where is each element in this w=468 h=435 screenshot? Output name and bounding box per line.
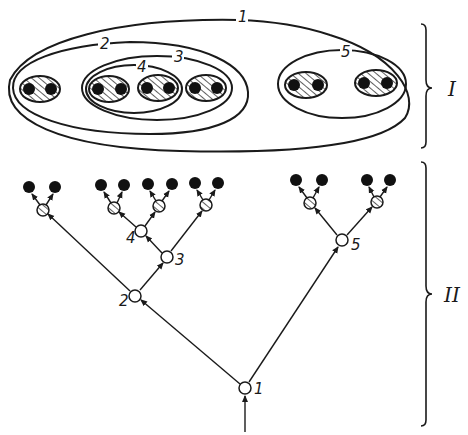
- tree-leaves: [23, 174, 396, 193]
- edge-5-pair-f: [347, 207, 372, 235]
- pair-node-e: [304, 197, 316, 209]
- set-4-label: 4: [137, 58, 147, 76]
- pair-node-b: [108, 202, 120, 214]
- edge-2-3: [140, 263, 163, 290]
- pair-f: [355, 70, 397, 96]
- edge-1-5: [249, 247, 338, 382]
- pair-node-d: [200, 199, 212, 211]
- node-4: [135, 225, 147, 237]
- brace-part-ii: [421, 162, 432, 426]
- hatched-pairs: [20, 70, 397, 102]
- brace-part-i: [421, 24, 432, 148]
- leaf: [95, 179, 107, 191]
- leaf: [384, 174, 396, 186]
- pair-d: [186, 75, 226, 101]
- node-3-label: 3: [175, 251, 185, 269]
- set-2-label: 2: [100, 35, 110, 53]
- node-2: [129, 290, 141, 302]
- set-5-label: 5: [341, 43, 351, 61]
- node-5: [336, 234, 348, 246]
- leaf: [142, 178, 154, 190]
- leaf: [49, 181, 61, 193]
- node-1: [239, 382, 251, 394]
- set-3-label: 3: [174, 48, 184, 66]
- edge-1-2: [141, 300, 240, 384]
- pair-b: [89, 76, 129, 102]
- leaf: [361, 174, 373, 186]
- edge-4-pair-c: [145, 212, 155, 226]
- edge-4-pair-b: [119, 212, 136, 227]
- part-ii-tree: [32, 187, 387, 432]
- leaf: [118, 179, 130, 191]
- tree-node-labels: 1 2 3 4 5: [119, 229, 361, 398]
- node-3: [161, 251, 173, 263]
- pair-c: [138, 75, 178, 101]
- braces: [421, 24, 432, 426]
- leaf: [316, 174, 328, 186]
- node-2-label: 2: [119, 292, 129, 310]
- node-1-label: 1: [254, 380, 264, 398]
- node-4-label: 4: [126, 229, 136, 247]
- part-ii-label: II: [443, 283, 461, 307]
- leaf: [166, 178, 178, 190]
- edge-5-pair-e: [315, 208, 337, 235]
- pair-node-c: [153, 200, 165, 212]
- leaf: [189, 177, 201, 189]
- part-i-label: I: [447, 77, 457, 101]
- diagram-canvas: 1 2 3 4 5: [0, 0, 468, 435]
- edge-3-4: [146, 236, 162, 253]
- pair-node-a: [37, 204, 49, 216]
- node-5-label: 5: [351, 236, 361, 254]
- edge-2-pair-a: [48, 214, 130, 291]
- pair-e: [285, 72, 327, 98]
- tree-internal-nodes: [129, 225, 348, 394]
- set-1-label: 1: [238, 8, 248, 26]
- leaf: [212, 177, 224, 189]
- edge-3-pair-d: [171, 211, 202, 251]
- pair-node-f: [371, 196, 383, 208]
- leaf: [23, 181, 35, 193]
- pair-a: [20, 76, 60, 102]
- leaf: [290, 174, 302, 186]
